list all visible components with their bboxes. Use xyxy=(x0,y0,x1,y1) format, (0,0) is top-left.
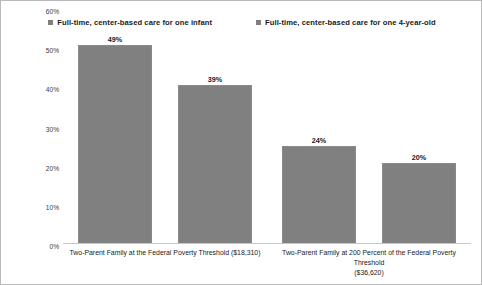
bar-infant-200fpt[interactable] xyxy=(282,146,356,244)
bar-value-label: 49% xyxy=(108,36,122,43)
y-tick-40: 40% xyxy=(46,86,59,93)
x-label-group1-line1: Two-Parent Family at the Federal Poverty… xyxy=(65,248,265,258)
y-tick-30: 30% xyxy=(46,125,59,132)
bar-infant-fpt[interactable] xyxy=(78,45,152,244)
y-tick-20: 20% xyxy=(46,164,59,171)
bar-wrap: 20% xyxy=(382,11,456,244)
bar-wrap: 49% xyxy=(78,11,152,244)
bar-wrap: 39% xyxy=(178,11,252,244)
bar-4yo-fpt[interactable] xyxy=(178,85,252,244)
y-tick-10: 10% xyxy=(46,203,59,210)
y-tick-0: 0% xyxy=(49,243,59,250)
x-axis-labels: Two-Parent Family at the Federal Poverty… xyxy=(63,248,471,278)
y-tick-50: 50% xyxy=(46,47,59,54)
y-tick-60: 60% xyxy=(46,8,59,15)
x-label-group1: Two-Parent Family at the Federal Poverty… xyxy=(63,248,267,278)
bar-wrap: 24% xyxy=(282,11,356,244)
bar-value-label: 20% xyxy=(412,154,426,161)
y-axis-ticks: 60% 50% 40% 30% 20% 10% 0% xyxy=(31,1,59,285)
bar-chart: Full-time, center-based care for one inf… xyxy=(0,0,482,285)
plot-area: 49% 39% 24% 20% xyxy=(63,11,471,244)
bar-group-federal-poverty-threshold: 49% 39% xyxy=(63,11,267,244)
x-label-group2-line1: Two-Parent Family at 200 Percent of the … xyxy=(269,248,469,268)
x-label-group2-line2: ($36,620) xyxy=(269,268,469,278)
x-axis-baseline xyxy=(63,243,471,244)
bar-value-label: 39% xyxy=(208,76,222,83)
bars-container: 24% 20% xyxy=(267,11,471,244)
bars-container: 49% 39% xyxy=(63,11,267,244)
bar-group-200-percent-fpt: 24% 20% xyxy=(267,11,471,244)
bar-value-label: 24% xyxy=(312,137,326,144)
x-label-group2: Two-Parent Family at 200 Percent of the … xyxy=(267,248,471,278)
bar-4yo-200fpt[interactable] xyxy=(382,163,456,244)
bar-groups: 49% 39% 24% 20% xyxy=(63,11,471,244)
